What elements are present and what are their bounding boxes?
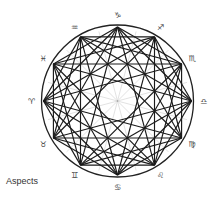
gemini-glyph-icon: ♊ xyxy=(71,171,78,180)
spoke-line xyxy=(118,31,137,101)
trine-aspect-line xyxy=(81,37,192,101)
trine-aspect-line xyxy=(118,64,182,175)
spoke-line xyxy=(118,82,188,101)
virgo-glyph-icon: ♍ xyxy=(188,140,195,149)
trine-aspect-line xyxy=(81,101,192,165)
aspects-wheel: ♈♉♊♋♌♍♎♏♐♑♒♓ xyxy=(0,0,215,202)
spoke-line xyxy=(48,101,118,120)
trine-aspect-line xyxy=(118,27,182,138)
spoke-line xyxy=(99,101,118,171)
taurus-glyph-icon: ♉ xyxy=(39,140,46,149)
aries-glyph-icon: ♈ xyxy=(28,97,35,106)
trine-aspect-line xyxy=(53,64,117,175)
spoke-line xyxy=(118,50,169,101)
scorpio-glyph-icon: ♏ xyxy=(188,54,196,63)
spoke-line xyxy=(67,101,118,152)
cancer-glyph-icon: ♋ xyxy=(114,183,121,192)
spoke-line xyxy=(118,101,188,120)
spoke-line xyxy=(118,101,169,152)
aquarius-glyph-icon: ♒ xyxy=(71,23,78,32)
sagittarius-glyph-icon: ♐ xyxy=(157,23,164,32)
spoke-line xyxy=(99,31,118,101)
spoke-line xyxy=(67,50,118,101)
spoke-line xyxy=(118,101,137,171)
spoke-line xyxy=(48,82,118,101)
trine-aspect-line xyxy=(44,101,155,165)
trine-aspect-line xyxy=(44,37,155,101)
diagram-caption: Aspects xyxy=(6,176,38,186)
center-point xyxy=(117,100,119,102)
pisces-glyph-icon: ♓ xyxy=(39,54,46,63)
trine-aspect-line xyxy=(53,27,117,138)
capricorn-glyph-icon: ♑ xyxy=(114,11,121,20)
libra-glyph-icon: ♎ xyxy=(200,97,207,106)
leo-glyph-icon: ♌ xyxy=(157,171,164,180)
